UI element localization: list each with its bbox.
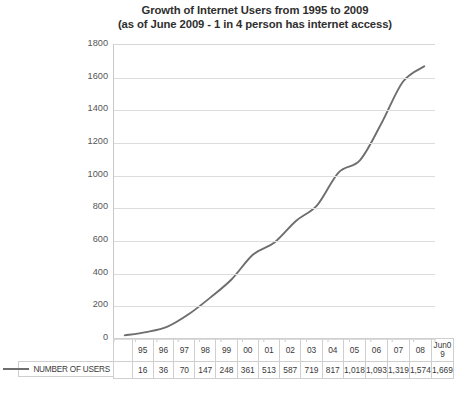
gridline: [114, 176, 435, 177]
chart-title: Growth of Internet Users from 1995 to 20…: [60, 3, 450, 31]
table-header-cell-year: 02: [280, 339, 301, 362]
plot-area: [113, 44, 435, 338]
table-value-cell: 147: [195, 362, 216, 379]
data-table: 9596979899000102030405060708Jun091636701…: [113, 338, 454, 379]
table-header-cell-year: 04: [322, 339, 343, 362]
chart-title-line2: (as of June 2009 - 1 in 4 person has int…: [60, 17, 450, 31]
gridline: [114, 208, 435, 209]
table-value-cell: 1,319: [387, 362, 409, 379]
table-header-row: 9596979899000102030405060708Jun09: [114, 339, 454, 362]
legend: NUMBER OF USERS: [18, 361, 113, 377]
table-header-cell-year: 06: [365, 339, 387, 362]
table-value-cell: 248: [216, 362, 237, 379]
gridline: [114, 306, 435, 307]
y-axis-tick-label: 400: [62, 268, 108, 277]
y-axis-tick-labels: 180016001400120010008006004002000: [62, 0, 108, 396]
y-axis-tick-label: 800: [62, 202, 108, 211]
gridline: [114, 110, 435, 111]
y-axis-tick-label: 0: [62, 333, 108, 342]
gridline: [114, 78, 435, 79]
table-header-cell-year: 08: [409, 339, 431, 362]
table-value-cell: 36: [153, 362, 174, 379]
legend-series-label: NUMBER OF USERS: [33, 365, 110, 374]
table-header-cell-year: 01: [258, 339, 279, 362]
y-axis-tick-label: 1800: [62, 39, 108, 48]
table-header-cell-year: 99: [216, 339, 237, 362]
table-header-cell-year: 98: [195, 339, 216, 362]
table-value-cell: 1,574: [409, 362, 431, 379]
table-value-cell: 817: [322, 362, 343, 379]
table-header-cell-year: 97: [174, 339, 195, 362]
chart-title-line1: Growth of Internet Users from 1995 to 20…: [60, 3, 450, 17]
table-header-cell-year: Jun09: [431, 339, 453, 362]
y-axis-tick-label: 1400: [62, 104, 108, 113]
y-axis-tick-label: 1600: [62, 72, 108, 81]
y-axis-tick-label: 1000: [62, 170, 108, 179]
table-header-cell-year: 96: [153, 339, 174, 362]
gridline: [114, 274, 435, 275]
table-value-cell: 70: [174, 362, 195, 379]
gridline: [114, 241, 435, 242]
line-series-svg: [114, 45, 435, 338]
table-header-cell-year: 95: [132, 339, 153, 362]
table-header-cell-year: 03: [301, 339, 322, 362]
table-value-cell: 719: [301, 362, 322, 379]
table-header-cell-year: 00: [237, 339, 258, 362]
y-axis-tick-label: 600: [62, 235, 108, 244]
table-value-cell: 361: [237, 362, 258, 379]
table-value-cell: 1,018: [343, 362, 365, 379]
data-line-number-of-users: [125, 66, 425, 335]
table-value-cell: 1,093: [365, 362, 387, 379]
legend-line-swatch-icon: [3, 368, 29, 370]
table-value-cell: 587: [280, 362, 301, 379]
table-value-row: 1636701472483615135877198171,0181,0931,3…: [114, 362, 454, 379]
table-header-spacer-cell: [114, 339, 133, 362]
y-axis-tick-label: 200: [62, 300, 108, 309]
gridline: [114, 143, 435, 144]
table-value-cell: 1,669: [431, 362, 453, 379]
table-header-cell-year: 07: [387, 339, 409, 362]
table-header-cell-year: 05: [343, 339, 365, 362]
table-value-cell: 513: [258, 362, 279, 379]
y-axis-tick-label: 1200: [62, 137, 108, 146]
jun09-line2: 9: [440, 350, 445, 359]
table-row-label-cell: [114, 362, 133, 379]
table-value-cell: 16: [132, 362, 153, 379]
jun09-line1: Jun0: [434, 341, 452, 350]
chart-container: Growth of Internet Users from 1995 to 20…: [0, 0, 454, 396]
